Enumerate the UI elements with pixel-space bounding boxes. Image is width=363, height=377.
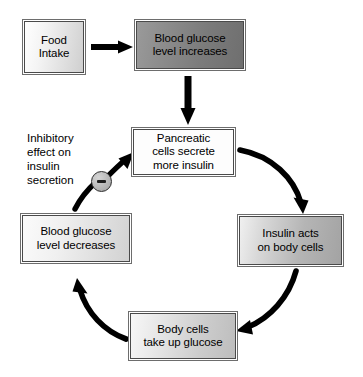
edge-pancreatic-to-insulin: [240, 150, 309, 214]
node-body-cells-label: Body cells take up glucose: [143, 323, 222, 350]
node-glucose-decrease[interactable]: Blood glucose level decreases: [20, 213, 132, 264]
feedback-loop-diagram: Food Intake Blood glucose level increase…: [0, 0, 363, 377]
edge-increase-to-pancreatic: [181, 76, 196, 125]
node-body-cells-body: Body cells take up glucose: [130, 313, 236, 359]
node-body-cells[interactable]: Body cells take up glucose: [128, 311, 238, 361]
node-pancreatic-label: Pancreatic cells secrete more insulin: [152, 132, 215, 173]
node-food-intake-body: Food Intake: [24, 21, 84, 73]
node-glucose-decrease-body: Blood glucose level decreases: [22, 215, 130, 262]
node-glucose-decrease-label: Blood glucose level decreases: [37, 225, 115, 252]
node-pancreatic[interactable]: Pancreatic cells secrete more insulin: [131, 127, 236, 177]
node-glucose-increase[interactable]: Blood glucose level increases: [134, 19, 246, 71]
node-pancreatic-body: Pancreatic cells secrete more insulin: [133, 129, 234, 175]
minus-circle-icon: [91, 171, 112, 192]
minus-glyph: [97, 180, 106, 182]
node-food-intake[interactable]: Food Intake: [22, 19, 86, 75]
node-glucose-increase-body: Blood glucose level increases: [136, 21, 244, 69]
node-glucose-increase-label: Blood glucose level increases: [153, 32, 228, 59]
node-insulin-acts[interactable]: Insulin acts on body cells: [237, 214, 344, 267]
edge-food-to-increase: [91, 41, 133, 54]
node-insulin-acts-body: Insulin acts on body cells: [239, 216, 342, 265]
node-food-intake-label: Food Intake: [39, 34, 70, 61]
edge-bodycells-to-decrease: [73, 278, 127, 339]
node-insulin-acts-label: Insulin acts on body cells: [258, 227, 324, 254]
edge-insulin-to-bodycells: [236, 271, 296, 335]
